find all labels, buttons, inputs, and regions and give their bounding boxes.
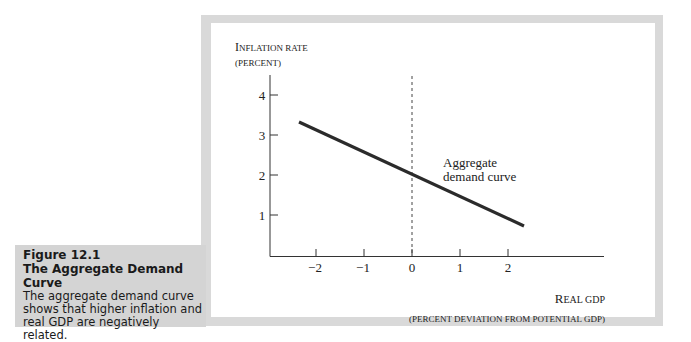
svg-text:INFLATION RATE: INFLATION RATE bbox=[235, 40, 308, 54]
y-tick-labels: 4 3 2 1 bbox=[259, 88, 266, 223]
figure-title: The Aggregate Demand Curve bbox=[23, 262, 206, 290]
svg-text:demand curve: demand curve bbox=[443, 169, 517, 184]
x-tick-label: 0 bbox=[409, 260, 416, 275]
figure-description: The aggregate demand curve shows that hi… bbox=[23, 290, 206, 342]
y-tick-label: 1 bbox=[259, 208, 266, 223]
x-tick-labels: −2 −1 0 1 2 bbox=[308, 260, 511, 275]
figure-number: Figure 12.1 bbox=[23, 249, 206, 262]
figure-caption: Figure 12.1 The Aggregate Demand Curve T… bbox=[15, 245, 206, 327]
svg-text:(PERCENT): (PERCENT) bbox=[235, 58, 281, 68]
x-tick-label: 1 bbox=[457, 260, 464, 275]
y-tick-label: 2 bbox=[259, 168, 266, 183]
svg-text:Aggregate: Aggregate bbox=[443, 155, 497, 170]
y-tick-label: 4 bbox=[259, 88, 266, 103]
y-axis-title: INFLATION RATE (PERCENT) bbox=[235, 40, 308, 68]
x-tick-label: −2 bbox=[308, 260, 322, 275]
x-tick-label: −1 bbox=[356, 260, 370, 275]
curve-label: Aggregate demand curve bbox=[443, 155, 517, 184]
x-tick-label: 2 bbox=[505, 260, 512, 275]
svg-text:REAL GDP: REAL GDP bbox=[555, 291, 606, 306]
svg-text:(PERCENT DEVIATION FROM POTENT: (PERCENT DEVIATION FROM POTENTIAL GDP) bbox=[409, 314, 605, 324]
x-axis-title: REAL GDP (PERCENT DEVIATION FROM POTENTI… bbox=[409, 291, 605, 324]
y-tick-label: 3 bbox=[259, 128, 266, 143]
y-ticks bbox=[270, 95, 278, 215]
